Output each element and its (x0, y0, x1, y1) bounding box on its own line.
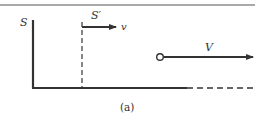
relativity-diagram: S S′ v V (a) (0, 0, 267, 129)
moving-object-circle (157, 54, 164, 61)
frame-s-label: S (20, 16, 28, 29)
figure-caption: (a) (120, 101, 134, 113)
frame-sprime-label: S′ (91, 9, 102, 22)
frame-velocity-label: v (121, 21, 127, 32)
object-velocity-label: V (205, 41, 214, 54)
